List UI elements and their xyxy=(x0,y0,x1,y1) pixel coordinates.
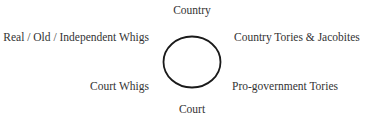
label-pro-government-tories: Pro-government Tories xyxy=(232,80,338,93)
label-country: Country xyxy=(162,4,222,17)
label-country-tories-jacobites: Country Tories & Jacobites xyxy=(234,31,360,44)
label-court-whigs: Court Whigs xyxy=(60,80,149,93)
label-real-old-independent-whigs: Real / Old / Independent Whigs xyxy=(0,31,149,44)
label-court: Court xyxy=(162,103,222,116)
